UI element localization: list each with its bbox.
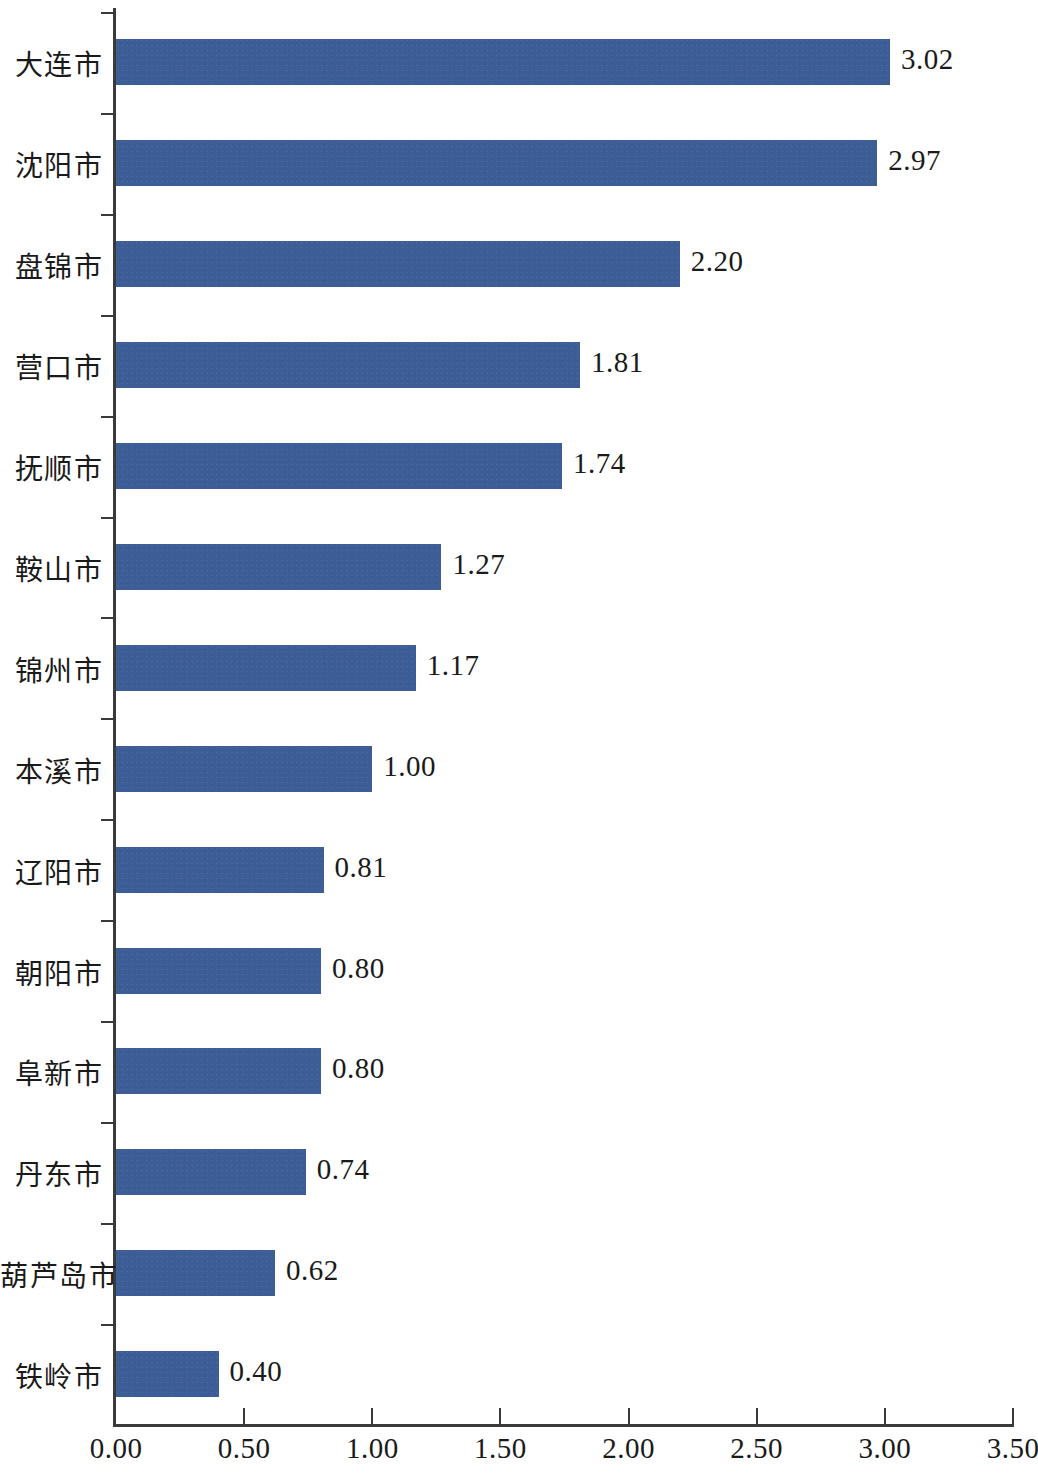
bar-value-label: 1.74 xyxy=(573,447,626,480)
value-tick-label: 1.50 xyxy=(474,1432,527,1465)
category-label: 盘锦市 xyxy=(0,245,103,285)
bar-value-label: 1.81 xyxy=(591,346,644,379)
value-tick xyxy=(628,1408,630,1425)
bar-value-label: 3.02 xyxy=(901,43,954,76)
category-tick xyxy=(101,920,114,922)
value-tick xyxy=(243,1408,245,1425)
value-axis-line xyxy=(113,1424,1014,1427)
category-tick xyxy=(101,1223,114,1225)
bar[interactable] xyxy=(116,544,441,590)
category-tick xyxy=(101,315,114,317)
bar[interactable] xyxy=(116,847,324,893)
bar[interactable] xyxy=(116,1250,275,1296)
bar-value-label: 0.40 xyxy=(230,1355,283,1388)
bar-chart: 3.022.972.201.811.741.271.171.000.810.80… xyxy=(0,0,1038,1477)
value-tick-label: 2.00 xyxy=(602,1432,655,1465)
category-label: 本溪市 xyxy=(0,750,103,790)
category-label: 锦州市 xyxy=(0,649,103,689)
bar[interactable] xyxy=(116,443,562,489)
category-tick xyxy=(101,517,114,519)
category-tick xyxy=(101,12,114,14)
value-tick xyxy=(499,1408,501,1425)
value-tick-label: 0.50 xyxy=(218,1432,271,1465)
bar[interactable] xyxy=(116,1048,321,1094)
bar-value-label: 0.62 xyxy=(286,1254,339,1287)
category-label: 葫芦岛市 xyxy=(0,1254,103,1294)
category-label: 阜新市 xyxy=(0,1052,103,1092)
category-tick xyxy=(101,416,114,418)
value-tick-label: 1.00 xyxy=(346,1432,399,1465)
bar-value-label: 2.97 xyxy=(888,144,941,177)
value-tick xyxy=(371,1408,373,1425)
bar-value-label: 0.74 xyxy=(317,1153,370,1186)
value-tick xyxy=(884,1408,886,1425)
bar[interactable] xyxy=(116,746,372,792)
category-label: 大连市 xyxy=(0,43,103,83)
category-tick xyxy=(101,1324,114,1326)
category-tick xyxy=(101,1021,114,1023)
bar[interactable] xyxy=(116,948,321,994)
bar-value-label: 0.80 xyxy=(332,952,385,985)
bar[interactable] xyxy=(116,140,877,186)
bar-value-label: 0.81 xyxy=(335,851,388,884)
value-tick-label: 0.00 xyxy=(90,1432,143,1465)
bar[interactable] xyxy=(116,1149,306,1195)
bar-value-label: 1.27 xyxy=(452,548,505,581)
category-label: 辽阳市 xyxy=(0,851,103,891)
value-tick xyxy=(1012,1408,1014,1425)
bar[interactable] xyxy=(116,39,890,85)
category-tick xyxy=(101,819,114,821)
category-tick xyxy=(101,718,114,720)
bar[interactable] xyxy=(116,645,416,691)
category-label: 鞍山市 xyxy=(0,548,103,588)
category-label: 铁岭市 xyxy=(0,1355,103,1395)
bar[interactable] xyxy=(116,241,680,287)
value-tick-label: 2.50 xyxy=(730,1432,783,1465)
category-label: 沈阳市 xyxy=(0,144,103,184)
category-tick xyxy=(101,214,114,216)
category-tick xyxy=(101,1122,114,1124)
bar-value-label: 0.80 xyxy=(332,1052,385,1085)
category-label: 朝阳市 xyxy=(0,952,103,992)
category-tick xyxy=(101,617,114,619)
value-tick-label: 3.50 xyxy=(987,1432,1038,1465)
bar[interactable] xyxy=(116,342,580,388)
bar[interactable] xyxy=(116,1351,219,1397)
chart-page: 3.022.972.201.811.741.271.171.000.810.80… xyxy=(0,0,1038,1477)
category-label: 抚顺市 xyxy=(0,447,103,487)
bar-value-label: 2.20 xyxy=(691,245,744,278)
bar-value-label: 1.00 xyxy=(383,750,436,783)
category-label: 营口市 xyxy=(0,346,103,386)
category-label: 丹东市 xyxy=(0,1153,103,1193)
category-tick xyxy=(101,113,114,115)
bar-value-label: 1.17 xyxy=(427,649,480,682)
value-tick xyxy=(756,1408,758,1425)
category-axis-line xyxy=(113,8,116,1426)
value-tick-label: 3.00 xyxy=(858,1432,911,1465)
